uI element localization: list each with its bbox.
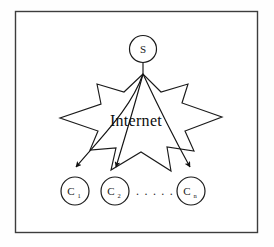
client-node-n[interactable]: C n [177, 177, 205, 205]
client-node-2[interactable]: C 2 [101, 177, 129, 205]
server-node-label: S [140, 43, 146, 55]
client-node-2-label: C [107, 185, 114, 197]
server-node[interactable]: S [130, 36, 157, 63]
client-node-1[interactable]: C 1 [61, 177, 89, 205]
client-ellipsis: . . . . . [136, 184, 174, 198]
client-node-1-subscript: 1 [77, 192, 80, 199]
network-diagram: S C 1 C 2 . . . . . C n Internet [0, 0, 274, 247]
client-node-n-circle [177, 177, 205, 205]
client-node-n-label: C [183, 185, 190, 197]
internet-cloud-label: Internet [110, 112, 162, 129]
client-node-2-circle [101, 177, 129, 205]
client-node-1-label: C [67, 185, 74, 197]
client-node-1-circle [61, 177, 89, 205]
figure-container: S C 1 C 2 . . . . . C n Internet [0, 0, 274, 247]
client-node-2-subscript: 2 [117, 192, 120, 199]
